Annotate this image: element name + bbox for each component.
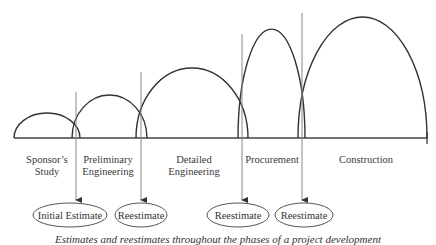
phase-label-line: Construction xyxy=(333,154,399,166)
phase-label-line: Procurement xyxy=(244,154,300,166)
phase-label-sponsors-study: Sponsor’s Study xyxy=(21,154,73,178)
phase-label-line: Sponsor’s xyxy=(21,154,73,166)
phase-label-line: Engineering xyxy=(166,166,222,178)
phase-label-line: Engineering xyxy=(80,166,136,178)
phase-arc-construction xyxy=(298,17,427,138)
phase-label-line: Detailed xyxy=(166,154,222,166)
estimate-node-initial: Initial Estimate xyxy=(33,203,107,227)
phase-arc-procurement xyxy=(238,29,305,138)
phase-label-construction: Construction xyxy=(333,154,399,166)
phase-label-line: Study xyxy=(21,166,73,178)
figure-caption: Estimates and reestimates throughout the… xyxy=(0,233,436,245)
phase-label-procurement: Procurement xyxy=(244,154,300,166)
phase-arc-detailed-engineering xyxy=(136,68,248,138)
estimate-node-reestimate-2: Reestimate xyxy=(207,203,269,227)
estimate-node-reestimate-1: Reestimate xyxy=(115,203,167,227)
phase-label-preliminary-engineering: Preliminary Engineering xyxy=(80,154,136,178)
estimate-node-reestimate-3: Reestimate xyxy=(275,203,333,227)
phase-label-detailed-engineering: Detailed Engineering xyxy=(166,154,222,178)
estimate-label: Reestimate xyxy=(215,210,262,221)
phase-arc-sponsors-study xyxy=(14,113,80,138)
estimate-label: Initial Estimate xyxy=(38,210,103,221)
estimate-label: Reestimate xyxy=(281,210,328,221)
estimate-label: Reestimate xyxy=(118,210,165,221)
phase-label-line: Preliminary xyxy=(80,154,136,166)
